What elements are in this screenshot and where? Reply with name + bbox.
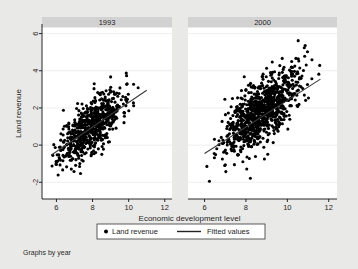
- x-tick-label-2000-8: 8: [244, 203, 248, 212]
- legend-marker-icon: [104, 230, 108, 234]
- y-axis-title: Land revenue: [14, 88, 23, 137]
- x-tick-label-2000-6: 6: [202, 203, 206, 212]
- chart-figure: 1993681012-202462000681012Land revenueEc…: [0, 0, 358, 269]
- figure-note: Graphs by year: [23, 249, 72, 257]
- legend-line-label: Fitted values: [207, 227, 250, 236]
- panel-title-1993: 1993: [99, 18, 116, 27]
- y-tick-label-4: 4: [31, 69, 40, 73]
- x-tick-label-1993-10: 10: [124, 203, 132, 212]
- legend-marker-label: Land revenue: [112, 227, 158, 236]
- x-tick-label-2000-12: 12: [325, 203, 333, 212]
- panel-title-2000: 2000: [254, 18, 271, 27]
- y-tick-label-6: 6: [31, 31, 40, 35]
- x-tick-label-1993-8: 8: [90, 203, 94, 212]
- x-tick-label-1993-12: 12: [161, 203, 169, 212]
- y-tick-label-2: 2: [31, 106, 40, 110]
- scatter-plot-svg: 1993681012-202462000681012Land revenueEc…: [0, 0, 358, 269]
- x-tick-label-2000-10: 10: [283, 203, 291, 212]
- x-tick-label-1993-6: 6: [54, 203, 58, 212]
- y-tick-label--2: -2: [31, 179, 40, 186]
- x-axis-title: Economic development level: [139, 214, 241, 223]
- y-tick-label-0: 0: [31, 143, 40, 147]
